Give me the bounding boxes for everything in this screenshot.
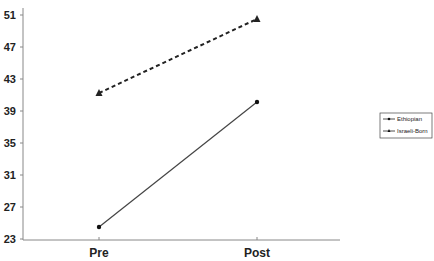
y-tick-label: 27 [4, 201, 16, 213]
y-tick-label: 51 [4, 9, 16, 21]
y-tick-labels: 51 47 43 39 35 31 27 23 [4, 9, 16, 245]
y-tick-label: 23 [4, 233, 16, 245]
circle-marker [255, 100, 259, 104]
y-tick-label: 43 [4, 73, 16, 85]
y-tick-label: 47 [4, 41, 16, 53]
triangle-marker [254, 15, 261, 22]
x-tick-label-post: Post [244, 246, 270, 260]
line-chart: 51 47 43 39 35 31 27 23 Pre Post Ethiopi… [0, 0, 434, 261]
y-tick-label: 31 [4, 169, 16, 181]
circle-marker [97, 225, 101, 229]
series-ethiopian [97, 100, 259, 229]
legend-item-ethiopian: Ethiopian [397, 116, 422, 122]
legend: Ethiopian Israeli-Born [380, 113, 432, 138]
y-tick-label: 39 [4, 105, 16, 117]
series-israeli-born [96, 15, 261, 96]
x-tick-label-pre: Pre [89, 246, 109, 260]
legend-item-israeli-born: Israeli-Born [397, 128, 428, 134]
y-tick-label: 35 [4, 137, 16, 149]
circle-marker [388, 118, 391, 121]
